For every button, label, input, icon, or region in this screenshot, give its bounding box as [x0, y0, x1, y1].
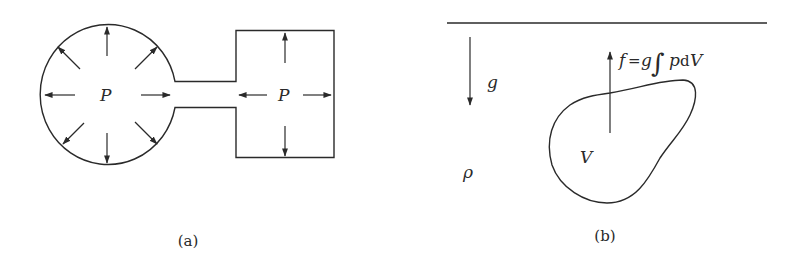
formula-volume: V: [690, 50, 704, 70]
body-outline: [549, 80, 695, 203]
pressure-label-sphere: P: [99, 85, 112, 105]
arrow-down-left: [63, 123, 84, 144]
density-label: ρ: [462, 162, 473, 182]
vessel-outline: [40, 25, 334, 165]
gravity-label: g: [487, 72, 498, 92]
formula-equals: =: [628, 52, 641, 70]
buoyancy-formula: f = g ∫ p d V: [617, 48, 704, 78]
figure-a: P P (a): [40, 25, 334, 251]
arrow-up-left: [58, 47, 80, 69]
formula-d: d: [680, 52, 690, 70]
formula-f: f: [617, 50, 628, 70]
diagram-canvas: P P (a) g ρ V f = g ∫ p d V (b): [0, 0, 799, 277]
pressure-label-box: P: [277, 85, 290, 105]
formula-integral: ∫: [651, 48, 665, 78]
volume-label: V: [580, 147, 594, 167]
arrow-up-right: [135, 47, 157, 69]
figure-b: g ρ V f = g ∫ p d V (b): [447, 23, 767, 245]
arrow-down-right: [135, 122, 157, 144]
caption-b: (b): [594, 227, 615, 245]
formula-rho: p: [669, 50, 680, 70]
caption-a: (a): [178, 232, 199, 250]
